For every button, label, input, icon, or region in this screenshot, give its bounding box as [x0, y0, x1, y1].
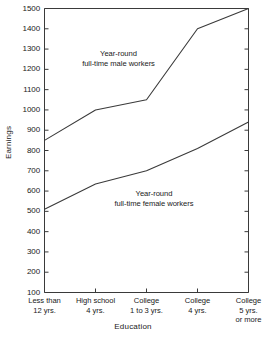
y-tick-label: 200	[14, 267, 40, 276]
y-tick-label: 1500	[14, 4, 40, 13]
y-tick-label: 1200	[14, 64, 40, 73]
x-tick-label-line: College	[218, 296, 267, 306]
x-axis-title: Education	[0, 322, 266, 331]
y-tick-label: 1100	[14, 85, 40, 94]
x-axis-ticks	[96, 289, 198, 293]
series-annotation-male: Year-roundfull-time male workers	[56, 49, 181, 69]
series-line-male	[45, 9, 249, 141]
y-tick-label: 400	[14, 227, 40, 236]
annotation-line: Year-round	[90, 189, 218, 199]
x-tick-label: College5 yrs.or more	[218, 296, 267, 325]
y-tick-label: 300	[14, 247, 40, 256]
y-tick-label: 700	[14, 166, 40, 175]
y-tick-label: 1300	[14, 44, 40, 53]
y-tick-label: 800	[14, 146, 40, 155]
annotation-line: full-time female workers	[90, 199, 218, 209]
y-tick-label: 500	[14, 206, 40, 215]
series-annotation-female: Year-roundfull-time female workers	[90, 189, 218, 209]
earnings-by-education-chart: 1002003004005006007008009001000110012001…	[0, 0, 266, 338]
y-tick-label: 900	[14, 125, 40, 134]
y-tick-label: 1000	[14, 105, 40, 114]
annotation-line: full-time male workers	[56, 59, 181, 69]
y-tick-label: 1400	[14, 24, 40, 33]
annotation-line: Year-round	[56, 49, 181, 59]
y-tick-label: 600	[14, 186, 40, 195]
y-axis-title: Earnings	[4, 113, 13, 173]
x-tick-label-line: 5 yrs.	[218, 306, 267, 316]
